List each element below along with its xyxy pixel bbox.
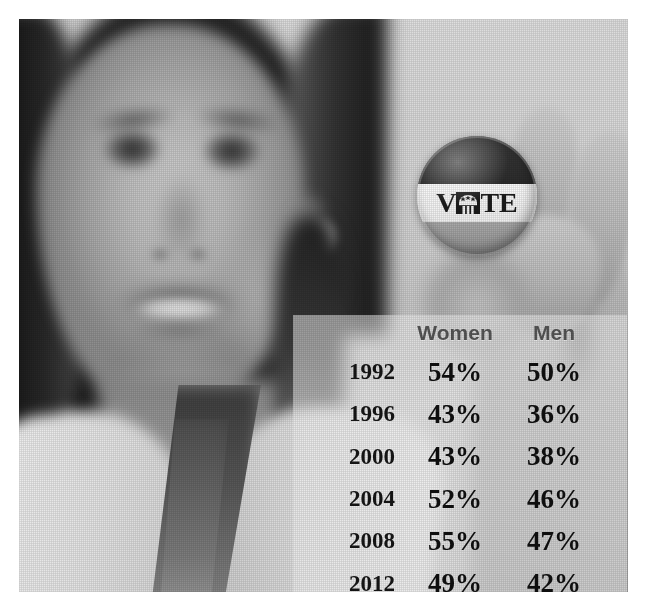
table-row: 1996 <box>293 401 401 427</box>
table-cell-women: 54% <box>401 357 509 388</box>
nostril-right <box>187 247 209 262</box>
table-header-women: Women <box>401 321 509 345</box>
table-row: 1992 <box>293 359 401 385</box>
vote-letters-te: TE <box>480 189 517 217</box>
table-row: 2004 <box>293 486 401 512</box>
table-cell-women: 43% <box>401 399 509 430</box>
table-header-men: Men <box>509 321 609 345</box>
vote-button-bottom-band <box>417 222 537 256</box>
table-row: 2008 <box>293 528 401 554</box>
table-cell-women: 55% <box>401 526 509 557</box>
table-cell-women: 52% <box>401 484 509 515</box>
table-cell-men: 38% <box>509 441 609 472</box>
table-cell-men: 47% <box>509 526 609 557</box>
table-cell-men: 42% <box>509 568 609 592</box>
table-row: 2000 <box>293 444 401 470</box>
lower-lip <box>129 319 229 341</box>
capitol-dome-stars-icon <box>455 191 481 215</box>
nostril-left <box>149 247 171 262</box>
vote-campaign-button: V TE <box>417 136 537 256</box>
voter-turnout-table: Women Men 1992 54% 50% 1996 43% 36% 2000… <box>293 315 627 592</box>
table-cell-men: 50% <box>509 357 609 388</box>
table-row: 2012 <box>293 571 401 592</box>
vote-button-center-band: V TE <box>417 184 537 222</box>
table-cell-women: 43% <box>401 441 509 472</box>
page-root: V TE <box>0 0 646 611</box>
photograph: V TE <box>19 19 628 592</box>
table-cell-women: 49% <box>401 568 509 592</box>
eye-left <box>101 127 163 171</box>
vote-button-top-band <box>417 136 537 184</box>
vote-button-wordmark: V TE <box>436 189 518 217</box>
table-cell-men: 36% <box>509 399 609 430</box>
vote-letter-v: V <box>436 189 456 217</box>
eye-right <box>201 129 263 173</box>
table-cell-men: 46% <box>509 484 609 515</box>
